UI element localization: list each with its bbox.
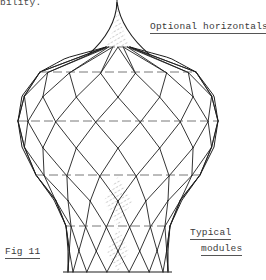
figure-stage: bility. Optional horizontals Typical mod… (0, 0, 266, 280)
label-optional-horizontals: Optional horizontals (150, 21, 266, 34)
label-typical: Typical (190, 227, 231, 240)
figure-number: Fig 11 (5, 246, 40, 259)
finial-shaded (106, 2, 130, 47)
label-modules: modules (201, 243, 242, 256)
